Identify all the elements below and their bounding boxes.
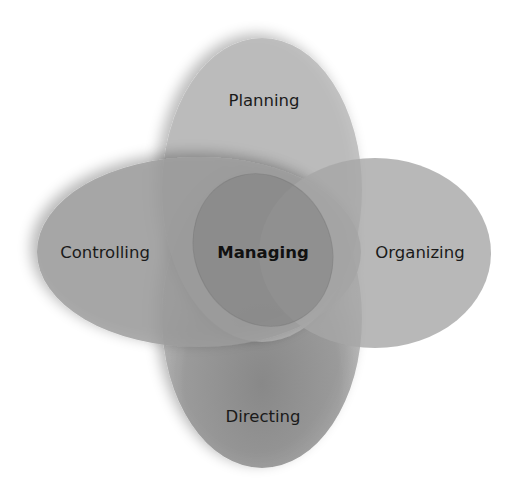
label-planning: Planning bbox=[228, 91, 299, 110]
venn-diagram: Planning Controlling Managing Organizing… bbox=[0, 0, 517, 490]
label-controlling: Controlling bbox=[60, 243, 150, 262]
label-directing: Directing bbox=[226, 407, 301, 426]
label-managing: Managing bbox=[217, 243, 308, 262]
label-organizing: Organizing bbox=[375, 243, 464, 262]
